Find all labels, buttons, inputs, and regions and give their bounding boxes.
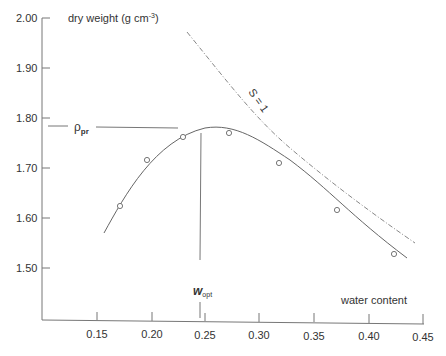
x-tick-label: 0.25 <box>194 329 215 341</box>
saturation-line <box>187 32 415 243</box>
y-tick-label: 1.80 <box>16 112 37 124</box>
x-tick-label: 0.45 <box>412 331 433 343</box>
w-opt-label: wopt <box>193 284 212 299</box>
x-tick-label: 0.30 <box>248 329 269 341</box>
y-tick-label: 2.00 <box>16 12 37 24</box>
saturation-label: S = 1 <box>246 86 271 114</box>
compaction-curve <box>104 127 407 258</box>
data-point <box>144 157 149 162</box>
data-point <box>226 130 231 135</box>
x-tick-label: 0.15 <box>86 328 107 340</box>
compaction-chart: 2.00 1.90 1.80 1.70 1.60 1.50 0.15 0.20 … <box>0 0 446 356</box>
x-tick-labels: 0.15 0.20 0.25 0.30 0.35 0.40 0.45 <box>86 328 433 343</box>
data-point <box>391 251 396 256</box>
data-point <box>180 134 185 139</box>
data-point <box>117 203 122 208</box>
y-tick-label: 1.90 <box>16 62 37 74</box>
y-axis-label: dry weight (g cm-3) <box>68 12 159 24</box>
x-tick-label: 0.35 <box>303 330 324 342</box>
x-axis <box>42 312 424 324</box>
data-point <box>276 160 281 165</box>
data-point <box>334 207 339 212</box>
y-tick-label: 1.60 <box>16 212 37 224</box>
y-axis <box>42 18 50 320</box>
w-opt-marker <box>200 133 201 260</box>
data-points <box>117 130 396 256</box>
x-tick-label: 0.20 <box>141 328 162 340</box>
x-tick-label: 0.40 <box>358 330 379 342</box>
rho-pr-marker <box>48 126 178 128</box>
y-tick-label: 1.50 <box>16 262 37 274</box>
x-axis-label: water content <box>340 294 407 306</box>
rho-pr-label: ρpr <box>74 120 89 136</box>
y-tick-labels: 2.00 1.90 1.80 1.70 1.60 1.50 <box>16 12 37 274</box>
y-tick-label: 1.70 <box>16 162 37 174</box>
